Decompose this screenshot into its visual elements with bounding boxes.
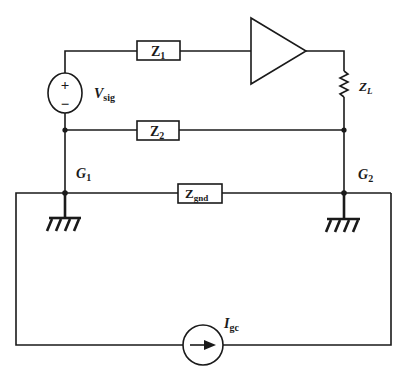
load-impedance-zl: ZL — [340, 71, 373, 97]
ground-loop-wire — [16, 190, 391, 345]
ground-current-source — [183, 325, 223, 365]
impedance-z2: Z2 — [137, 121, 179, 141]
circuit-diagram: Z1 ZL + − Vsig Z2 G1 G2 — [0, 0, 406, 375]
ground-icon — [326, 193, 360, 232]
amplifier-triangle — [251, 18, 306, 84]
svg-text:ZL: ZL — [358, 79, 373, 96]
z2-path-wire — [62, 113, 346, 194]
svg-text:−: − — [61, 96, 70, 112]
output-wire — [306, 51, 344, 71]
ground-icon — [47, 193, 81, 231]
g1-node-label: G1 — [76, 166, 91, 183]
igc-label: Igc — [223, 316, 239, 333]
g2-node-label: G2 — [358, 167, 373, 184]
impedance-z1: Z1 — [137, 41, 180, 61]
svg-text:+: + — [61, 77, 70, 93]
impedance-zgnd: Zgnd — [178, 184, 222, 203]
vsig-label: Vsig — [94, 86, 115, 103]
signal-voltage-source: + − — [48, 73, 82, 113]
